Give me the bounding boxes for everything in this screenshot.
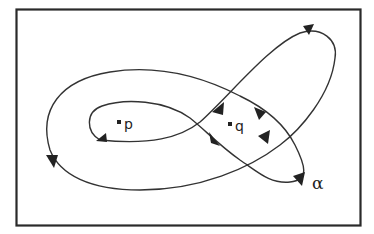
point-q-label: q <box>235 118 244 134</box>
point-p-marker <box>117 120 121 124</box>
curve-alpha-main <box>47 31 336 190</box>
arrow-icon <box>254 107 266 120</box>
arrow-icon <box>293 172 305 186</box>
arrow-icon <box>303 24 314 35</box>
arrow-icon <box>209 132 220 146</box>
curve-label-alpha: α <box>312 173 324 193</box>
arrow-icon <box>258 130 270 144</box>
arrow-icon <box>96 133 107 142</box>
diagram-canvas: p q α <box>0 0 374 234</box>
point-q-marker <box>228 122 232 126</box>
point-p-label: p <box>124 116 133 132</box>
